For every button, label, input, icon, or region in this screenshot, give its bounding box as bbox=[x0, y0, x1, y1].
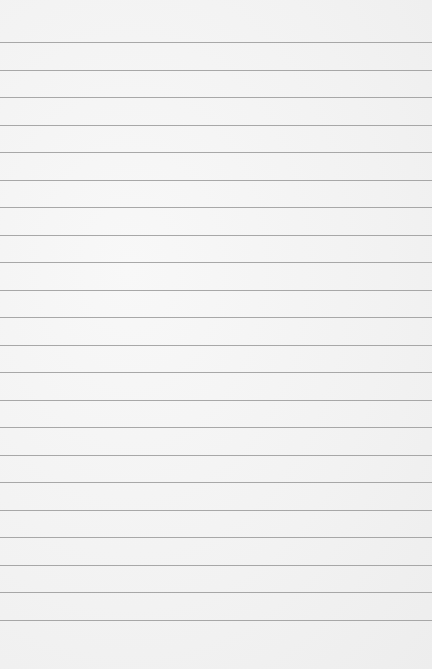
ruled-line bbox=[0, 565, 432, 566]
ruled-line bbox=[0, 180, 432, 181]
ruled-line bbox=[0, 125, 432, 126]
ruled-line bbox=[0, 592, 432, 593]
ruled-line bbox=[0, 207, 432, 208]
ruled-line bbox=[0, 400, 432, 401]
ruled-line bbox=[0, 455, 432, 456]
ruled-line bbox=[0, 262, 432, 263]
ruled-line bbox=[0, 70, 432, 71]
ruled-line bbox=[0, 510, 432, 511]
ruled-line bbox=[0, 372, 432, 373]
ruled-line bbox=[0, 317, 432, 318]
ruled-line bbox=[0, 42, 432, 43]
ruled-line bbox=[0, 427, 432, 428]
ruled-line bbox=[0, 482, 432, 483]
ruled-line bbox=[0, 235, 432, 236]
ruled-line bbox=[0, 152, 432, 153]
lined-paper bbox=[0, 0, 432, 669]
ruled-line bbox=[0, 537, 432, 538]
ruled-line bbox=[0, 620, 432, 621]
ruled-line bbox=[0, 345, 432, 346]
ruled-line bbox=[0, 97, 432, 98]
ruled-line bbox=[0, 290, 432, 291]
